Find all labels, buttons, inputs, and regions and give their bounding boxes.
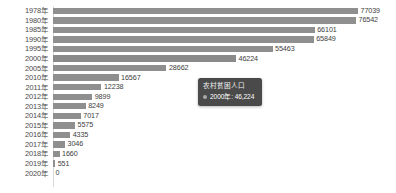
category-label: 2016年 [0,130,48,139]
bar-track: 4335 [53,130,394,140]
category-label: 1990年 [0,35,48,44]
bar-value-label: 551 [58,160,70,168]
bar-value-label: 9899 [95,93,111,101]
bar-value-label: 16567 [121,74,141,82]
bar[interactable] [53,55,236,61]
bar-row[interactable]: 2015年5575 [0,121,396,131]
category-label: 2014年 [0,111,48,120]
bar[interactable] [53,84,101,90]
bar-value-label: 65849 [316,35,336,43]
bar[interactable] [53,8,358,14]
bar-track: 7017 [53,111,394,121]
bar[interactable] [53,65,166,71]
bar[interactable] [53,103,86,109]
category-label: 2011年 [0,83,48,92]
bar-value-label: 77039 [361,7,381,15]
bar[interactable] [53,94,92,100]
bar-value-label: 1660 [62,150,78,158]
bar-value-label: 3046 [68,140,84,148]
category-label: 2017年 [0,140,48,149]
bar-row[interactable]: 2014年7017 [0,111,396,121]
category-label: 2012年 [0,92,48,101]
bar-value-label: 7017 [83,112,99,120]
bar-track: 77039 [53,6,394,16]
bar-track: 1660 [53,149,394,159]
bar-row[interactable]: 1990年65849 [0,35,396,45]
bar-value-label: 4335 [73,131,89,139]
category-label: 2013年 [0,102,48,111]
category-label: 2000年 [0,54,48,63]
bar[interactable] [53,36,314,42]
tooltip-series-marker-icon [203,95,207,99]
bar-chart: 1978年770391980年765421985年661011990年65849… [0,0,396,193]
category-label: 1978年 [0,6,48,15]
bar-value-label: 66101 [317,26,337,34]
bar[interactable] [53,151,60,157]
category-label: 2020年 [0,169,48,178]
bar-row[interactable]: 1995年55463 [0,44,396,54]
bar-track: 76542 [53,16,394,26]
bar-row[interactable]: 2020年0 [0,168,396,178]
tooltip-title: 农村贫困人口 [203,82,257,90]
category-label: 1980年 [0,16,48,25]
bar-track: 55463 [53,44,394,54]
bar[interactable] [53,74,119,80]
category-label: 2015年 [0,121,48,130]
category-label: 1985年 [0,25,48,34]
bar-value-label: 5575 [78,121,94,129]
category-label: 2005年 [0,64,48,73]
bar-track: 65849 [53,35,394,45]
bar-value-label: 0 [56,169,60,177]
bar-value-label: 76542 [359,16,379,24]
bar-value-label: 28662 [169,64,189,72]
bar[interactable] [53,46,273,52]
category-label: 2019年 [0,159,48,168]
tooltip-value: 2000年: 46,224 [210,93,254,101]
bar-row[interactable]: 2019年551 [0,159,396,169]
bar-track: 28662 [53,63,394,73]
bar[interactable] [53,27,315,33]
bar-track: 66101 [53,25,394,35]
bar[interactable] [53,113,81,119]
bar[interactable] [53,122,75,128]
bar-row[interactable]: 2016年4335 [0,130,396,140]
bar-row[interactable]: 2018年1660 [0,149,396,159]
bar-track: 551 [53,159,394,169]
bar-track: 0 [53,168,394,178]
category-label: 1995年 [0,44,48,53]
bar-row[interactable]: 2000年46224 [0,54,396,64]
bar-track: 5575 [53,121,394,131]
bar-row[interactable]: 1980年76542 [0,16,396,26]
bar-value-label: 8249 [88,102,104,110]
bar-value-label: 12238 [104,83,124,91]
bar[interactable] [53,160,55,166]
bar-row[interactable]: 1978年77039 [0,6,396,16]
bar-value-label: 55463 [275,45,295,53]
tooltip-row: 2000年: 46,224 [203,93,257,101]
bar[interactable] [53,17,356,23]
bar-track: 3046 [53,140,394,150]
chart-tooltip: 农村贫困人口 2000年: 46,224 [198,78,262,106]
bar[interactable] [53,132,70,138]
category-label: 2018年 [0,149,48,158]
bar-value-label: 46224 [239,55,259,63]
bar-row[interactable]: 2017年3046 [0,140,396,150]
bar-row[interactable]: 2005年28662 [0,63,396,73]
bar[interactable] [53,141,65,147]
bar-track: 46224 [53,54,394,64]
bar-row[interactable]: 1985年66101 [0,25,396,35]
category-label: 2010年 [0,73,48,82]
